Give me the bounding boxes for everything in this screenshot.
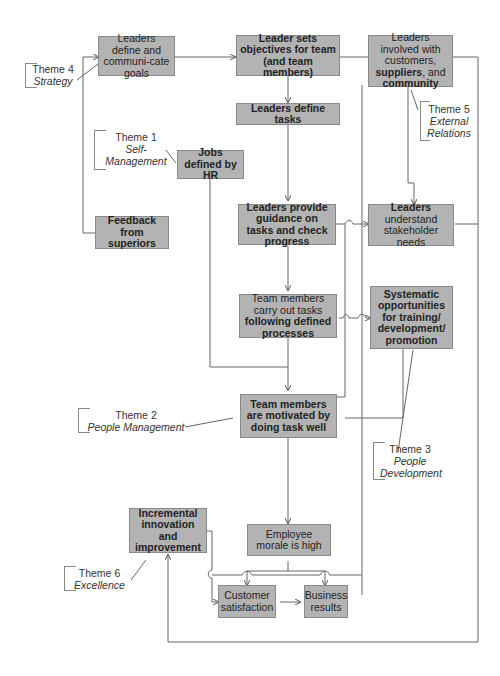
text-bold: suppliers [375, 66, 422, 78]
theme5-label: Theme 5 External Relations [424, 103, 474, 139]
theme6-label: Theme 6 Excellence [72, 567, 127, 591]
box-text: Team members carry out tasks following d… [243, 293, 333, 339]
theme4-label: Theme 4 Strategy [28, 63, 78, 87]
box-text: Leaders provide guidance on tasks and ch… [242, 202, 332, 248]
box-text: Jobs defined by HR [181, 147, 240, 182]
box-text: Employee morale is high [251, 529, 327, 552]
box-text: Leaders define tasks [240, 103, 336, 126]
text-bold: following defined processes [245, 315, 331, 339]
theme-name: Strategy [28, 75, 78, 87]
box-leaders-define-goals: Leaders define and communi-cate goals [98, 36, 175, 76]
theme-name: Self-Management [104, 143, 168, 167]
box-leader-sets-objectives: Leader sets objectives for team (and tea… [236, 35, 340, 76]
box-leaders-guidance: Leaders provide guidance on tasks and ch… [238, 204, 336, 245]
box-customer-satisfaction: Customer satisfaction [218, 585, 276, 618]
box-employee-morale: Employee morale is high [247, 524, 331, 556]
theme1-label: Theme 1 Self-Management [104, 131, 168, 167]
flow-diagram: Leaders define and communi-cate goals Le… [0, 0, 500, 676]
box-text: Leaders define and communi-cate goals [102, 33, 171, 79]
theme3-label: Theme 3 People Development [380, 443, 440, 479]
box-text: Team members are motivated by doing task… [244, 399, 333, 434]
box-text: Systematic opportunities for training/ d… [374, 289, 449, 347]
box-jobs-defined-hr: Jobs defined by HR [177, 150, 244, 179]
theme-name: External Relations [424, 115, 474, 139]
box-team-carry-out: Team members carry out tasks following d… [239, 294, 337, 338]
theme-number: Theme 1 [104, 131, 168, 143]
text-part: Leaders involved with customers, [380, 31, 440, 66]
text-bold: community [382, 77, 438, 89]
box-text: Leaders involved with customers, supplie… [372, 32, 449, 90]
box-feedback-superiors: Feedback from superiors [95, 216, 169, 249]
theme-number: Theme 4 [28, 63, 78, 75]
theme-name: Excellence [72, 579, 127, 591]
text-bold: Leaders [391, 201, 431, 213]
theme-number: Theme 2 [84, 409, 188, 421]
theme-name: People Management [84, 421, 188, 433]
theme-number: Theme 3 [380, 443, 440, 455]
theme-number: Theme 5 [424, 103, 474, 115]
box-text: Feedback from superiors [99, 215, 165, 250]
box-leaders-understand: Leaders understand stakeholder needs [368, 204, 454, 246]
box-incremental-innovation: Incremental innovation and improvement [129, 508, 207, 553]
box-text: Incremental innovation and improvement [133, 508, 203, 554]
theme2-label: Theme 2 People Management [84, 409, 188, 433]
box-leaders-involved: Leaders involved with customers, supplie… [368, 35, 453, 87]
box-text: Leader sets objectives for team (and tea… [240, 33, 336, 79]
box-text: Customer satisfaction [221, 590, 274, 613]
theme-number: Theme 6 [72, 567, 127, 579]
theme-name: People Development [380, 455, 440, 479]
box-team-motivated: Team members are motivated by doing task… [240, 394, 337, 438]
box-business-results: Business results [304, 585, 348, 618]
text-part: Team members carry out tasks [252, 292, 324, 316]
box-text: Business results [305, 590, 348, 613]
box-systematic-opportunities: Systematic opportunities for training/ d… [370, 286, 453, 349]
box-leaders-define-tasks: Leaders define tasks [236, 103, 340, 125]
text-part: , and [422, 66, 445, 78]
box-text: Leaders understand stakeholder needs [372, 202, 450, 248]
text-part: understand stakeholder needs [384, 213, 438, 248]
